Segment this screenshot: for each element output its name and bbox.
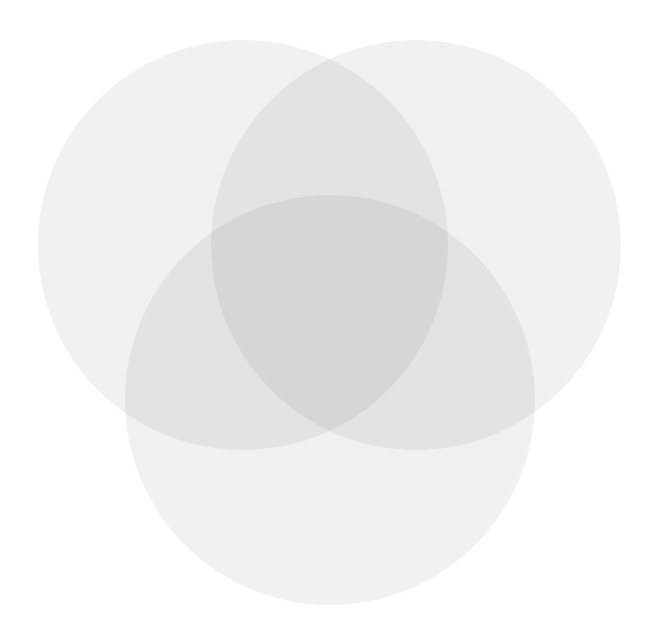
venn-diagram-canvas <box>0 0 661 642</box>
venn-circle-set-c[interactable] <box>125 195 535 605</box>
venn-diagram-svg <box>0 0 661 642</box>
